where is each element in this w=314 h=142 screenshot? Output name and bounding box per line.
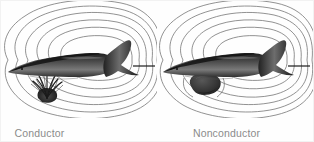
field-lines-upper [160, 0, 314, 60]
nonconductor-scene [157, 0, 314, 118]
electric-fish-figure: Conductor [0, 0, 314, 142]
panel-nonconductor: Nonconductor [157, 0, 314, 142]
panel-conductor: Conductor [0, 0, 157, 142]
electric-fish [8, 40, 155, 79]
electric-fish [163, 40, 310, 79]
conductor-scene [0, 0, 157, 118]
field-lines-upper [5, 0, 157, 60]
caption-nonconductor: Nonconductor [148, 127, 305, 139]
caption-conductor: Conductor [0, 127, 118, 139]
